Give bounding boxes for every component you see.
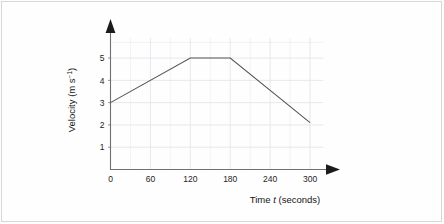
x-tick-label: 180 [223, 174, 237, 184]
x-tick-label: 120 [183, 174, 197, 184]
chart-canvas: 060120180240300 12345 Time t (seconds) V… [0, 0, 444, 224]
y-tick-label: 1 [100, 142, 105, 152]
x-axis-title: Time t (seconds) [250, 194, 320, 205]
x-tick-label: 0 [108, 174, 113, 184]
y-tick-label: 5 [100, 53, 105, 63]
y-tick-label: 2 [100, 120, 105, 130]
velocity-time-chart-figure: 060120180240300 12345 Time t (seconds) V… [0, 0, 444, 224]
x-tick-label: 240 [263, 174, 277, 184]
y-tick-label: 4 [100, 76, 105, 86]
y-axis-arrow-icon [106, 19, 116, 33]
x-axis-tick-labels: 060120180240300 [108, 174, 317, 184]
y-axis-title: Velocity (m s−1) [66, 68, 77, 132]
y-axis-tick-labels: 12345 [100, 53, 105, 152]
x-tick-label: 60 [146, 174, 156, 184]
x-tick-label: 300 [303, 174, 317, 184]
y-tick-label: 3 [100, 98, 105, 108]
x-axis-arrow-icon [326, 164, 340, 174]
